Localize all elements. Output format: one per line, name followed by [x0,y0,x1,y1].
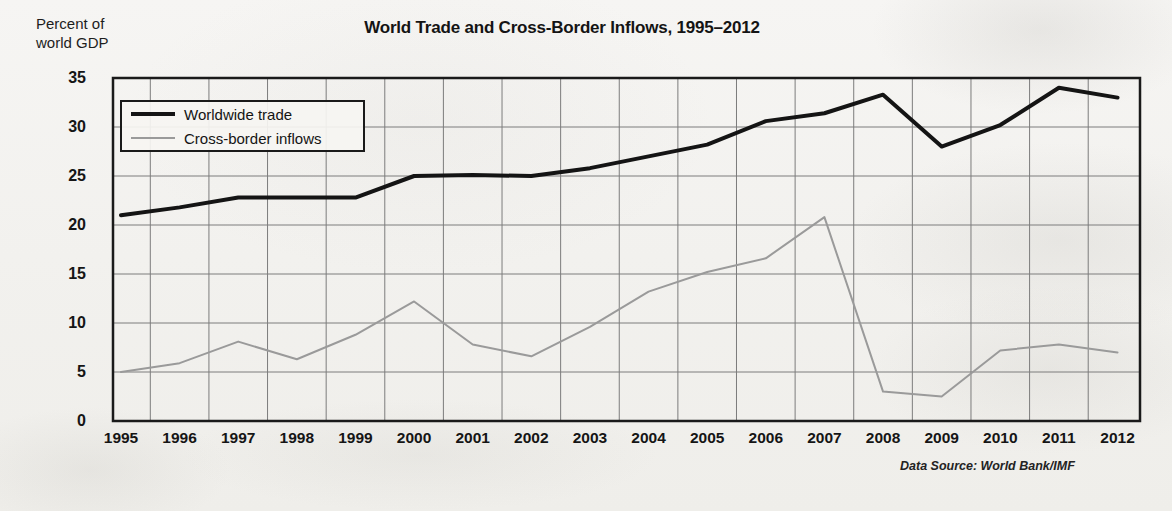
data-source-note: Data Source: World Bank/IMF [900,459,1075,473]
x-tick-label: 2009 [924,429,958,447]
x-tick-label: 2003 [573,429,607,447]
x-tick-label: 2011 [1042,429,1076,447]
legend-item-cross-border-inflows: Cross-border inflows [122,126,363,150]
y-tick-label: 30 [46,118,86,136]
x-tick-label: 2000 [397,429,431,447]
line-chart-figure: Percent of world GDP World Trade and Cro… [0,0,1172,511]
x-tick-label: 2010 [983,429,1017,447]
x-tick-label: 2012 [1100,429,1134,447]
chart-legend: Worldwide trade Cross-border inflows [120,100,365,152]
x-tick-label: 1997 [221,429,255,447]
y-tick-label: 15 [46,265,86,283]
y-tick-label: 0 [46,412,86,430]
legend-label: Cross-border inflows [184,130,322,147]
x-tick-label: 2001 [455,429,489,447]
y-tick-label: 10 [46,314,86,332]
x-tick-label: 2008 [866,429,900,447]
x-tick-label: 1998 [280,429,314,447]
x-tick-label: 2005 [690,429,724,447]
legend-line-swatch-inflows [131,137,175,139]
x-tick-label: 2006 [749,429,783,447]
x-tick-label: 2007 [807,429,841,447]
y-tick-label: 25 [46,167,86,185]
y-axis-tick-labels: 05101520253035 [42,0,86,511]
x-tick-label: 2002 [514,429,548,447]
legend-item-worldwide-trade: Worldwide trade [122,102,363,126]
x-tick-label: 1995 [104,429,138,447]
x-tick-label: 1996 [162,429,196,447]
y-tick-label: 5 [46,363,86,381]
legend-line-swatch-trade [131,112,175,116]
x-tick-label: 1999 [338,429,372,447]
legend-label: Worldwide trade [184,106,292,123]
y-tick-label: 20 [46,216,86,234]
x-tick-label: 2004 [631,429,665,447]
y-tick-label: 35 [46,69,86,87]
